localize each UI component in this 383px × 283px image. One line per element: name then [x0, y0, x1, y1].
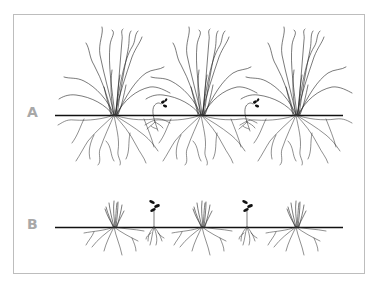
- seedling-b1: [146, 199, 164, 245]
- panel-a: [55, 27, 352, 165]
- seedling-a1: [147, 98, 168, 131]
- panel-b: [55, 199, 343, 255]
- grass-clump-a2: [145, 27, 257, 165]
- grass-diagram: [0, 0, 383, 283]
- grass-clump-a1: [58, 27, 170, 165]
- seedling-b2: [239, 199, 257, 245]
- seedling-a2: [239, 98, 260, 131]
- grass-clump-a3: [240, 27, 352, 165]
